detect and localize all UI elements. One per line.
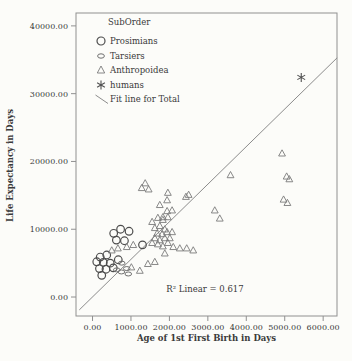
y-tick-label: 10000.00 — [30, 225, 68, 234]
y-tick-label: 30000.00 — [30, 90, 68, 99]
point-prosimians — [113, 236, 121, 244]
point-anthropoidea — [183, 245, 190, 251]
point-anthropoidea — [176, 245, 183, 251]
y-axis-title: Life Expectancy in Days — [5, 86, 16, 246]
fit-line-icon — [95, 93, 110, 105]
point-anthropoidea — [227, 172, 234, 178]
legend-item-label: humans — [110, 78, 144, 93]
point-anthropoidea — [156, 201, 163, 207]
point-anthropoidea — [211, 207, 218, 213]
r-squared-annotation: R² Linear = 0.617 — [140, 284, 270, 294]
point-anthropoidea — [130, 241, 137, 247]
x-tick-label: 6000.00 — [307, 323, 340, 332]
point-tarsiers — [125, 272, 132, 276]
anthropoidea-triangle-icon — [95, 64, 110, 76]
point-prosimians — [125, 227, 133, 235]
point-anthropoidea — [151, 258, 158, 264]
legend-item-anthropoidea: Anthropoidea — [95, 63, 180, 78]
point-anthropoidea — [154, 214, 161, 220]
point-anthropoidea — [169, 228, 176, 234]
x-tick-label: 2000.00 — [153, 323, 186, 332]
legend-item-tarsiers: Tarsiers — [95, 49, 180, 64]
x-tick-label: 5000.00 — [268, 323, 301, 332]
scatter-chart-figure: 0.001000.002000.003000.004000.005000.006… — [0, 0, 352, 361]
x-tick-label: 4000.00 — [230, 323, 263, 332]
y-tick-label: 0.00 — [50, 293, 68, 302]
point-anthropoidea — [108, 247, 115, 253]
point-anthropoidea — [144, 260, 151, 266]
point-anthropoidea — [164, 189, 171, 195]
x-axis-title: Age of 1st First Birth in Days — [76, 333, 337, 343]
legend: SubOrder Prosimians Tarsiers Anthropoide… — [95, 16, 180, 107]
point-anthropoidea — [136, 267, 143, 273]
point-anthropoidea — [161, 250, 168, 256]
legend-item-label: Prosimians — [110, 34, 158, 49]
point-humans — [297, 73, 305, 82]
x-tick-label: 0.00 — [84, 323, 102, 332]
prosimians-circle-icon — [95, 35, 110, 47]
point-anthropoidea — [164, 239, 171, 245]
legend-item-label: Fit line for Total — [110, 92, 180, 107]
point-anthropoidea — [145, 186, 152, 192]
point-anthropoidea — [164, 197, 171, 203]
point-anthropoidea — [190, 247, 197, 253]
legend-item-prosimians: Prosimians — [95, 34, 180, 49]
point-anthropoidea — [169, 207, 176, 213]
tarsiers-ellipse-icon — [95, 50, 110, 62]
point-anthropoidea — [216, 215, 223, 221]
y-tick-label: 20000.00 — [30, 157, 68, 166]
y-tick-label: 40000.00 — [30, 22, 68, 31]
point-anthropoidea — [166, 235, 173, 241]
legend-item-label: Tarsiers — [110, 49, 145, 64]
point-anthropoidea — [279, 150, 286, 156]
x-tick-label: 1000.00 — [114, 323, 147, 332]
legend-title: SubOrder — [95, 16, 180, 29]
point-anthropoidea — [149, 239, 156, 245]
humans-asterisk-icon — [95, 79, 110, 91]
legend-item-fit-line: Fit line for Total — [95, 92, 180, 107]
legend-item-humans: humans — [95, 78, 180, 93]
x-tick-label: 3000.00 — [191, 323, 224, 332]
point-anthropoidea — [142, 180, 149, 186]
point-prosimians — [98, 272, 106, 280]
point-anthropoidea — [149, 218, 156, 224]
point-prosimians — [117, 225, 125, 233]
point-anthropoidea — [164, 214, 171, 220]
point-anthropoidea — [114, 245, 121, 251]
legend-item-label: Anthropoidea — [110, 63, 169, 78]
point-anthropoidea — [156, 222, 163, 228]
